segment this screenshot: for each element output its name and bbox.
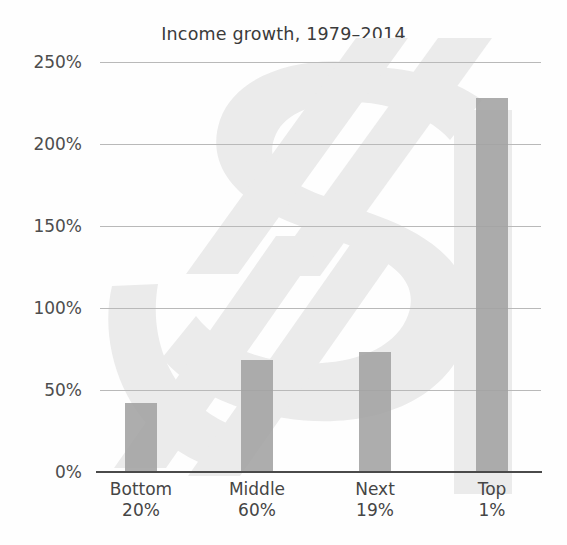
x-tick-line2: 20%: [81, 500, 201, 521]
x-tick-label-bottom: Bottom 20%: [81, 479, 201, 521]
gridline-150: [100, 226, 541, 227]
y-tick-label: 250%: [0, 52, 92, 72]
gridline-100: [100, 308, 541, 309]
chart-title: Income growth, 1979–2014: [0, 24, 567, 44]
bar-next-19[interactable]: [359, 352, 391, 472]
bar-bottom-20[interactable]: [125, 403, 157, 472]
x-tick-line2: 19%: [315, 500, 435, 521]
x-tick-line2: 60%: [197, 500, 317, 521]
y-axis-tick-labels: 0% 50% 100% 150% 200% 250%: [0, 62, 92, 472]
plot-area: [100, 62, 541, 472]
x-tick-line1: Middle: [229, 479, 285, 499]
x-axis-tick-labels: Bottom 20% Middle 60% Next 19% Top 1%: [100, 479, 541, 539]
y-tick-label: 200%: [0, 134, 92, 154]
x-tick-line1: Top: [478, 479, 507, 499]
bar-top-1[interactable]: [476, 98, 508, 472]
y-tick-label: 150%: [0, 216, 92, 236]
y-tick-label: 0%: [0, 462, 92, 482]
chart-container: Income growth, 1979–2014 0% 50% 100% 150…: [0, 0, 567, 545]
x-tick-line1: Bottom: [110, 479, 172, 499]
bar-middle-60[interactable]: [241, 360, 273, 472]
x-tick-label-middle: Middle 60%: [197, 479, 317, 521]
gridline-50: [100, 390, 541, 391]
x-tick-line1: Next: [355, 479, 395, 499]
y-tick-label: 50%: [0, 380, 92, 400]
x-axis-line: [96, 471, 542, 473]
gridline-250: [100, 62, 541, 63]
x-tick-label-next: Next 19%: [315, 479, 435, 521]
x-tick-line2: 1%: [432, 500, 552, 521]
x-tick-label-top: Top 1%: [432, 479, 552, 521]
gridline-200: [100, 144, 541, 145]
y-tick-label: 100%: [0, 298, 92, 318]
